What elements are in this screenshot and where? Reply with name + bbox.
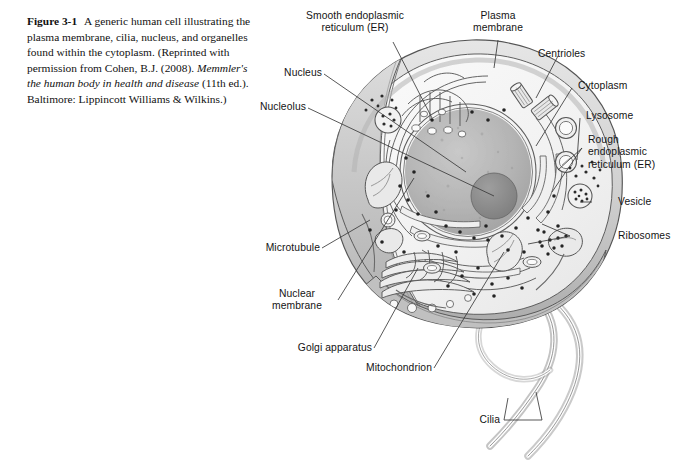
label-cilia: Cilia bbox=[432, 414, 500, 426]
cell-diagram: Smooth endoplasmic reticulum (ER) Plasma… bbox=[236, 0, 684, 466]
label-ribosomes: Ribosomes bbox=[618, 230, 670, 242]
label-centrioles: Centrioles bbox=[538, 48, 585, 60]
label-vesicle: Vesicle bbox=[618, 196, 651, 208]
label-cytoplasm: Cytoplasm bbox=[578, 80, 628, 92]
label-nucleolus: Nucleolus bbox=[222, 101, 306, 113]
label-nucleus: Nucleus bbox=[248, 67, 322, 79]
label-rough-er: Rough endoplasmic reticulum (ER) bbox=[588, 134, 655, 171]
label-mitochondrion: Mitochondrion bbox=[320, 362, 432, 374]
label-nuclear-membrane: Nuclear membrane bbox=[258, 288, 336, 313]
figure-number: Figure 3-1 bbox=[27, 15, 77, 27]
label-lysosome: Lysosome bbox=[586, 110, 633, 122]
label-plasma-membrane: Plasma membrane bbox=[452, 10, 544, 35]
label-golgi-apparatus: Golgi apparatus bbox=[254, 342, 372, 354]
figure-caption: Figure 3-1A generic human cell illustrat… bbox=[27, 14, 255, 108]
label-smooth-er: Smooth endoplasmic reticulum (ER) bbox=[280, 10, 430, 35]
label-microtubule: Microtubule bbox=[232, 242, 320, 254]
